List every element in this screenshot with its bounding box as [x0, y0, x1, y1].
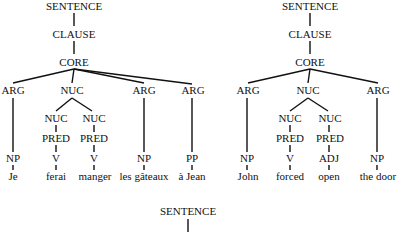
edge: [72, 98, 92, 111]
node-pred: PRED: [80, 132, 108, 144]
node-pred: PRED: [276, 132, 304, 144]
node-arg: ARG: [366, 84, 389, 96]
tree-diagram: SENTENCE CLAUSE CORE ARG NUC ARG ARG NP …: [0, 0, 402, 237]
edge: [310, 69, 378, 83]
word: the door: [360, 170, 397, 182]
word: forced: [276, 170, 305, 182]
node-sentence: SENTENCE: [282, 0, 339, 12]
node-arg: ARG: [132, 84, 155, 96]
node-clause: CLAUSE: [289, 28, 332, 40]
tree-french: SENTENCE CLAUSE CORE ARG NUC ARG ARG NP …: [1, 0, 206, 182]
tree-partial: SENTENCE: [160, 205, 217, 232]
node-core: CORE: [295, 56, 325, 68]
node-core: CORE: [59, 56, 89, 68]
word: Je: [8, 170, 17, 182]
node-adj: ADJ: [319, 152, 340, 164]
tree-english: SENTENCE CLAUSE CORE ARG NUC ARG NP John…: [236, 0, 396, 182]
node-nuc: NUC: [278, 112, 301, 124]
edge: [308, 98, 328, 111]
word: John: [238, 170, 259, 182]
node-sentence: SENTENCE: [46, 0, 103, 12]
node-np: NP: [370, 152, 384, 164]
node-np: NP: [137, 152, 151, 164]
node-v: V: [286, 152, 294, 164]
node-pred: PRED: [42, 132, 70, 144]
node-nuc: NUC: [318, 112, 341, 124]
node-sentence: SENTENCE: [160, 205, 217, 217]
node-pp: PP: [186, 152, 198, 164]
node-nuc: NUC: [60, 84, 83, 96]
edge: [56, 98, 72, 111]
node-v: V: [52, 152, 60, 164]
edge: [13, 69, 74, 83]
word: manger: [79, 170, 112, 182]
node-pred: PRED: [316, 132, 344, 144]
word: ferai: [46, 170, 66, 182]
node-v: V: [90, 152, 98, 164]
node-arg: ARG: [181, 84, 204, 96]
edge: [248, 69, 310, 83]
node-clause: CLAUSE: [53, 28, 96, 40]
word: à Jean: [178, 170, 206, 182]
node-arg: ARG: [1, 84, 24, 96]
edge: [74, 69, 192, 84]
edge: [72, 69, 74, 83]
node-nuc: NUC: [296, 84, 319, 96]
node-nuc: NUC: [44, 112, 67, 124]
node-arg: ARG: [236, 84, 259, 96]
node-np: NP: [6, 152, 20, 164]
node-np: NP: [240, 152, 254, 164]
word: open: [318, 170, 340, 182]
word: les gâteaux: [119, 170, 169, 182]
edge: [308, 69, 310, 83]
node-nuc: NUC: [82, 112, 105, 124]
edge: [290, 98, 308, 111]
